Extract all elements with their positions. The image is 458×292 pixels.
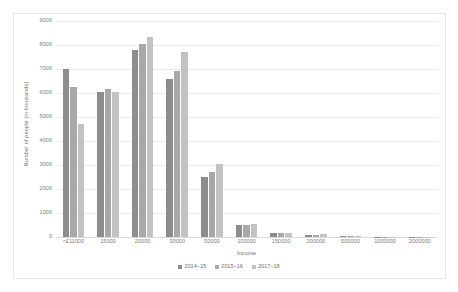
bar-group [229, 21, 264, 237]
x-tick-label: 200000 [298, 239, 333, 245]
x-tick-label: 20000 [125, 239, 160, 245]
bar-group [195, 21, 230, 237]
x-tick-label: <£11000 [56, 239, 91, 245]
x-tick-label: 2000000 [402, 239, 437, 245]
bar [355, 236, 362, 237]
y-tick-label: 5000 [40, 114, 52, 120]
x-axis-title: Income [56, 250, 437, 256]
bar [251, 224, 258, 237]
bar [313, 235, 320, 237]
bar-group [91, 21, 126, 237]
bar [201, 177, 208, 237]
bar [78, 124, 85, 237]
plot-area: 0100020003000400050006000700080009000 [56, 21, 437, 237]
bar [382, 237, 389, 238]
bar [424, 237, 431, 238]
y-tick-label: 8000 [40, 42, 52, 48]
bar-group [56, 21, 91, 237]
legend-item[interactable]: 2017–18 [252, 264, 280, 270]
x-tick-label: 1000000 [368, 239, 403, 245]
y-tick-label: 9000 [40, 18, 52, 24]
x-tick-label: 500000 [333, 239, 368, 245]
legend-label: 2015–16 [221, 264, 243, 270]
bar-group [264, 21, 299, 237]
legend-label: 2014–15 [184, 264, 206, 270]
bar [416, 237, 423, 238]
bar [243, 225, 250, 237]
bar [147, 37, 154, 237]
y-tick-label: 2000 [40, 186, 52, 192]
bar-group [125, 21, 160, 237]
bar [70, 87, 77, 237]
bar [340, 236, 347, 237]
bar [305, 235, 312, 237]
bar [63, 69, 70, 237]
legend-item[interactable]: 2014–15 [178, 264, 206, 270]
bar [320, 234, 327, 237]
legend-label: 2017–18 [258, 264, 280, 270]
bar [409, 237, 416, 238]
bar [216, 164, 223, 237]
y-tick-label: 1000 [40, 210, 52, 216]
bars-layer [56, 21, 437, 237]
bar-group [298, 21, 333, 237]
legend-swatch-icon [178, 265, 182, 269]
bar [105, 89, 112, 237]
legend-item[interactable]: 2015–16 [215, 264, 243, 270]
bar [132, 50, 139, 237]
x-axis-tick-labels: <£11000150002000030000500001000001500002… [56, 239, 437, 245]
bar-group [160, 21, 195, 237]
bar [112, 92, 119, 237]
y-tick-label: 3000 [40, 162, 52, 168]
y-tick-label: 7000 [40, 66, 52, 72]
bar [209, 172, 216, 237]
y-axis-title-label: Number of people (in thousands) [23, 82, 29, 167]
bar [174, 71, 181, 237]
bar [166, 79, 173, 237]
bar-chart-figure: Number of people (in thousands) 01000200… [0, 0, 458, 292]
bar [278, 233, 285, 237]
x-tick-label: 15000 [91, 239, 126, 245]
bar [181, 52, 188, 237]
bar [270, 233, 277, 237]
x-tick-label: 100000 [229, 239, 264, 245]
legend-swatch-icon [252, 265, 256, 269]
y-axis-title: Number of people (in thousands) [19, 13, 33, 235]
bar-group [333, 21, 368, 237]
bar-group [402, 21, 437, 237]
bar [97, 92, 104, 237]
bar [285, 233, 292, 237]
bar [236, 225, 243, 237]
chart-legend: 2014–152015–162017–18 [0, 264, 458, 270]
bar [389, 237, 396, 238]
bar-group [368, 21, 403, 237]
bar [347, 236, 354, 237]
bar [139, 44, 146, 237]
y-tick-label: 6000 [40, 90, 52, 96]
y-tick-label: 0 [49, 234, 52, 240]
legend-swatch-icon [215, 265, 219, 269]
x-tick-label: 50000 [195, 239, 230, 245]
y-tick-label: 4000 [40, 138, 52, 144]
x-tick-label: 150000 [264, 239, 299, 245]
x-tick-label: 30000 [160, 239, 195, 245]
bar [374, 237, 381, 238]
